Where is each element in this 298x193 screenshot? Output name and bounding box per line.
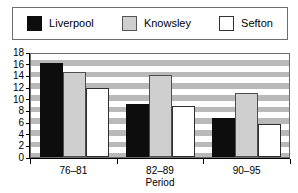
legend-entry-liverpool: Liverpool [27, 16, 94, 31]
y-tick-label: 0 [18, 153, 26, 163]
legend-label-sefton: Sefton [241, 18, 273, 29]
x-tick-mark [203, 159, 204, 164]
x-tick-mark [290, 159, 291, 164]
x-tick-mark [30, 159, 31, 164]
y-tick-label: 2 [18, 141, 26, 151]
bar-knowsley-1 [149, 75, 172, 157]
bar-knowsley-2 [235, 93, 258, 157]
legend-swatch-knowsley [122, 16, 137, 31]
x-tick-label: 76–81 [59, 165, 87, 176]
bar-liverpool-1 [126, 104, 149, 157]
legend-entry-sefton: Sefton [219, 16, 273, 31]
bar-liverpool-2 [212, 118, 235, 157]
y-tick-label: 10 [13, 95, 26, 105]
bar-sefton-0 [86, 88, 109, 157]
y-tick-label: 8 [18, 106, 26, 116]
bar-knowsley-0 [63, 72, 86, 157]
y-tick-label: 12 [13, 83, 26, 93]
legend-swatch-liverpool [27, 16, 42, 31]
y-tick-label: 18 [13, 48, 26, 58]
bar-sefton-1 [172, 106, 195, 157]
bar-liverpool-0 [40, 63, 63, 158]
x-axis-ticks [30, 159, 290, 164]
bar-groups [31, 54, 289, 157]
y-axis: 024681012141618 [0, 53, 30, 158]
x-tick-label: 82–89 [146, 165, 174, 176]
x-axis-title: Period [30, 177, 290, 188]
x-axis-tick-labels: 76–8182–8990–95 [30, 165, 290, 176]
bar-group [212, 54, 281, 157]
bar-group [40, 54, 109, 157]
y-tick-label: 16 [13, 60, 26, 70]
y-tick-label: 14 [13, 71, 26, 81]
legend-label-liverpool: Liverpool [49, 18, 94, 29]
legend-label-knowsley: Knowsley [144, 18, 191, 29]
y-tick-label: 4 [18, 130, 26, 140]
plot-area [30, 53, 290, 158]
x-tick-label: 90–95 [233, 165, 261, 176]
bar-sefton-2 [258, 124, 281, 157]
chart-legend: Liverpool Knowsley Sefton [12, 7, 288, 40]
legend-swatch-sefton [219, 16, 234, 31]
y-tick-label: 6 [18, 118, 26, 128]
legend-entry-knowsley: Knowsley [122, 16, 191, 31]
bar-chart: Liverpool Knowsley Sefton 02468101214161… [0, 0, 298, 193]
bar-group [126, 54, 195, 157]
x-tick-mark [117, 159, 118, 164]
